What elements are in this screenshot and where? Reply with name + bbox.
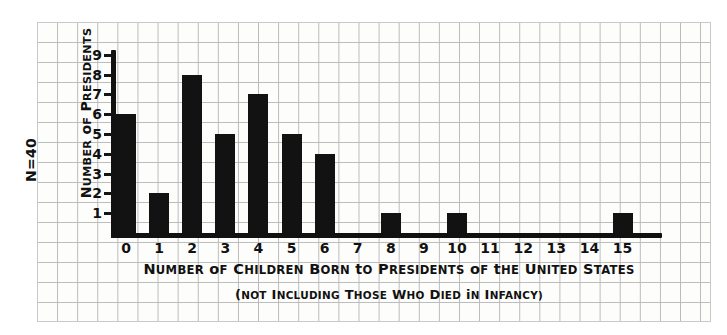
bar-category-0 [116,114,136,233]
y-tick-mark [104,192,112,195]
bar-category-2 [182,75,202,233]
bar-category-10 [447,213,467,233]
y-axis-label: NUMBER oF PRESIDENTS [78,13,94,213]
x-tick-label: 8 [376,241,406,255]
x-tick-label: 0 [111,241,141,255]
x-tick-label: 14 [574,241,604,255]
x-tick-label: 13 [541,241,571,255]
x-tick-label: 12 [508,241,538,255]
y-tick-mark [104,93,112,96]
histogram-plot: 123456789 0123456789101112131415 N=40 NU… [0,0,727,335]
y-tick-mark [104,133,112,136]
x-tick-label: 2 [177,241,207,255]
x-axis-line [111,233,662,238]
y-tick-mark [104,212,112,215]
bar-category-8 [381,213,401,233]
chart-page: 123456789 0123456789101112131415 N=40 NU… [0,0,727,335]
y-tick-mark [104,153,112,156]
y-tick-mark [104,173,112,176]
x-tick-label: 4 [243,241,273,255]
bar-category-1 [149,193,169,233]
bar-category-4 [248,94,268,233]
y-tick-mark [104,54,112,57]
x-tick-label: 1 [144,241,174,255]
x-tick-label: 11 [475,241,505,255]
bar-category-15 [613,213,633,233]
x-tick-label: 5 [277,241,307,255]
bar-category-6 [315,154,335,233]
x-axis-label: NUMBER oF CHILDREN BORN tO PRESIDENTS oF… [111,261,667,277]
x-tick-label: 9 [409,241,439,255]
x-tick-label: 6 [310,241,340,255]
bar-category-3 [215,134,235,233]
bar-category-5 [282,134,302,233]
y-tick-mark [104,113,112,116]
y-tick-mark [104,74,112,77]
x-tick-label: 15 [608,241,638,255]
x-tick-label: 10 [442,241,472,255]
x-tick-label: 3 [210,241,240,255]
x-tick-label: 7 [343,241,373,255]
x-axis-sublabel: (NOT INCLUDING THOSE WHO DIED iN INFANCY… [111,287,667,302]
sample-size-annotation: N=40 [23,110,39,210]
